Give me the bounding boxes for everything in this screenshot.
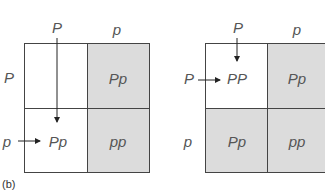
arrows-layer — [0, 0, 325, 193]
figure-caption: (b) — [2, 178, 15, 190]
